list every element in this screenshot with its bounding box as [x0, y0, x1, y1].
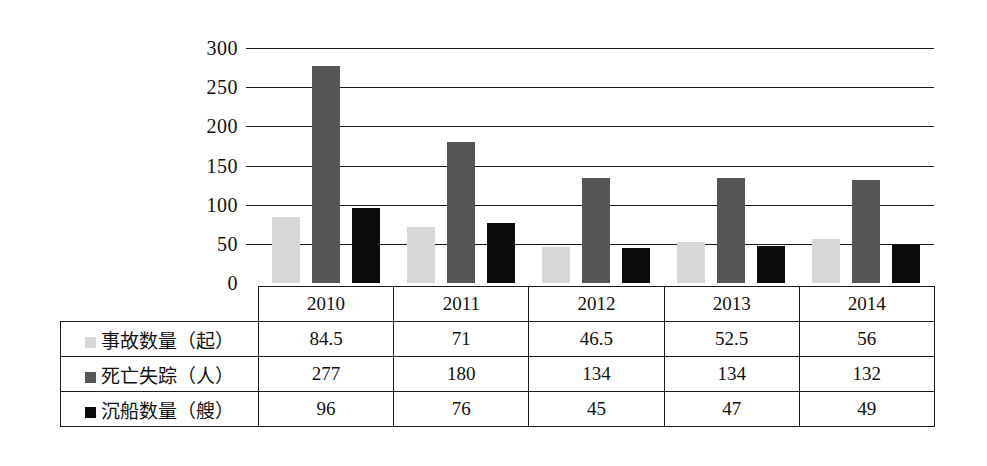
bar-deaths-2012 — [582, 178, 610, 283]
data-cell: 49 — [799, 392, 934, 427]
legend-cell-sinkings: 沉船数量（艘） — [61, 392, 259, 427]
data-cell: 46.5 — [529, 322, 664, 357]
bar-deaths-2011 — [447, 142, 475, 283]
bar-accidents-2012 — [542, 247, 570, 283]
bar-accidents-2014 — [812, 239, 840, 283]
data-cell: 277 — [259, 357, 394, 392]
legend-swatch-accidents-icon — [85, 337, 96, 348]
y-tick-dash-250 — [246, 87, 258, 88]
data-cell: 47 — [664, 392, 799, 427]
legend-cell-deaths: 死亡失踪（人） — [61, 357, 259, 392]
y-tick-label-150: 150 — [186, 156, 238, 176]
y-tick-label-50: 50 — [186, 234, 238, 254]
legend-label: 死亡失踪（人） — [101, 365, 234, 387]
data-cell: 132 — [799, 357, 934, 392]
bar-accidents-2011 — [407, 227, 435, 283]
data-cell: 52.5 — [664, 322, 799, 357]
y-tick-label-300: 300 — [186, 38, 238, 58]
y-tick-label-250: 250 — [186, 77, 238, 97]
table-row: 沉船数量（艘）9676454749 — [61, 392, 935, 427]
y-axis: 050100150200250300 — [186, 48, 238, 283]
legend-label: 事故数量（起） — [101, 330, 234, 352]
y-tick-dash-300 — [246, 48, 258, 49]
gridline-300 — [258, 48, 934, 49]
y-tick-dash-150 — [246, 166, 258, 167]
data-table: 20102011201220132014事故数量（起）84.57146.552.… — [60, 286, 935, 427]
column-header-2011: 2011 — [394, 287, 529, 322]
legend-label: 沉船数量（艘） — [101, 400, 234, 422]
data-cell: 96 — [259, 392, 394, 427]
data-cell: 180 — [394, 357, 529, 392]
bar-sinkings-2013 — [757, 246, 785, 283]
bar-deaths-2010 — [312, 66, 340, 283]
y-tick-label-200: 200 — [186, 116, 238, 136]
y-tick-dash-50 — [246, 244, 258, 245]
data-cell: 45 — [529, 392, 664, 427]
legend-swatch-sinkings-icon — [85, 407, 96, 418]
bar-sinkings-2014 — [892, 245, 920, 283]
y-tick-label-100: 100 — [186, 195, 238, 215]
column-header-2012: 2012 — [529, 287, 664, 322]
data-cell: 71 — [394, 322, 529, 357]
bar-accidents-2010 — [272, 217, 300, 283]
table-row: 事故数量（起）84.57146.552.556 — [61, 322, 935, 357]
data-cell: 56 — [799, 322, 934, 357]
column-header-2014: 2014 — [799, 287, 934, 322]
bar-deaths-2013 — [717, 178, 745, 283]
gridline-200 — [258, 126, 934, 127]
table-header-row: 20102011201220132014 — [61, 287, 935, 322]
data-cell: 134 — [664, 357, 799, 392]
legend-swatch-deaths-icon — [85, 372, 96, 383]
y-tick-dash-200 — [246, 126, 258, 127]
chart-plot-area — [258, 48, 934, 283]
gridline-250 — [258, 87, 934, 88]
bar-deaths-2014 — [852, 180, 880, 283]
bar-sinkings-2012 — [622, 248, 650, 283]
legend-cell-accidents: 事故数量（起） — [61, 322, 259, 357]
data-cell: 134 — [529, 357, 664, 392]
table-row: 死亡失踪（人）277180134134132 — [61, 357, 935, 392]
table-header-spacer — [61, 287, 259, 322]
bar-sinkings-2010 — [352, 208, 380, 283]
column-header-2010: 2010 — [259, 287, 394, 322]
y-tick-dash-100 — [246, 205, 258, 206]
chart-page: 050100150200250300 20102011201220132014事… — [0, 0, 987, 466]
bar-sinkings-2011 — [487, 223, 515, 283]
column-header-2013: 2013 — [664, 287, 799, 322]
data-cell: 84.5 — [259, 322, 394, 357]
gridline-150 — [258, 166, 934, 167]
bar-accidents-2013 — [677, 242, 705, 283]
data-cell: 76 — [394, 392, 529, 427]
